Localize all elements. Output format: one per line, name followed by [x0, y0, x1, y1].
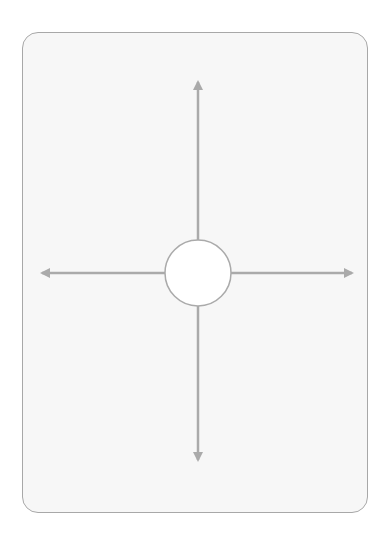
center-circle: [165, 240, 231, 306]
arrow-diagram: [0, 0, 391, 546]
